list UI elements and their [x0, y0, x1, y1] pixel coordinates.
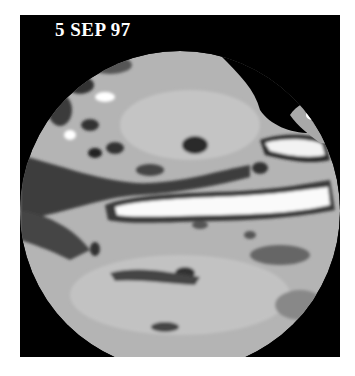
date-label: 5 SEP 97	[55, 19, 131, 41]
globe-image	[20, 15, 340, 357]
image-frame: 5 SEP 97	[20, 15, 340, 357]
